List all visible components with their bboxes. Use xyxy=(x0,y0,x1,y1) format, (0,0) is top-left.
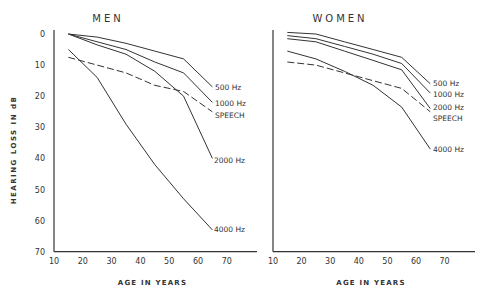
y-tick-label: 20 xyxy=(35,92,45,101)
series-line-speech xyxy=(287,62,430,112)
y-tick-label: 60 xyxy=(35,217,45,226)
x-tick-label: 10 xyxy=(268,257,278,266)
x-tick-label: 50 xyxy=(164,257,174,266)
x-tick-label: 60 xyxy=(193,257,203,266)
y-tick-label: 0 xyxy=(40,30,45,39)
hearing-loss-figure: MEN01020304050607010203040506070AGE IN Y… xyxy=(0,0,487,294)
x-tick-label: 60 xyxy=(411,257,421,266)
x-tick-label: 70 xyxy=(440,257,450,266)
x-tick-label: 20 xyxy=(297,257,307,266)
y-tick-label: 10 xyxy=(35,61,45,70)
x-tick-label: 20 xyxy=(78,257,88,266)
x-tick-label: 70 xyxy=(222,257,232,266)
series-label: 2000 Hz xyxy=(433,103,464,112)
men-panel: MEN01020304050607010203040506070AGE IN Y… xyxy=(35,13,257,287)
x-axis-label: AGE IN YEARS xyxy=(118,279,187,287)
panel-title: WOMEN xyxy=(312,13,367,24)
x-axis-label: AGE IN YEARS xyxy=(336,279,405,287)
x-tick-label: 50 xyxy=(382,257,392,266)
x-tick-label: 30 xyxy=(107,257,117,266)
series-label: 500 Hz xyxy=(433,79,459,88)
series-line-2000-hz xyxy=(287,39,430,109)
y-tick-label: 50 xyxy=(35,186,45,195)
series-label: 1000 Hz xyxy=(215,99,246,108)
series-label: 2000 Hz xyxy=(214,156,245,165)
series-label: 1000 Hz xyxy=(433,90,464,99)
series-line-2000-hz xyxy=(68,34,212,158)
y-tick-label: 70 xyxy=(35,248,45,257)
x-tick-label: 10 xyxy=(49,257,59,266)
series-label: 4000 Hz xyxy=(433,145,464,154)
x-tick-label: 40 xyxy=(135,257,145,266)
series-label: 500 Hz xyxy=(215,83,241,92)
y-tick-label: 30 xyxy=(35,123,45,132)
x-tick-label: 40 xyxy=(354,257,364,266)
y-tick-label: 40 xyxy=(35,154,45,163)
series-line-4000-hz xyxy=(287,51,430,149)
women-panel: WOMEN10203040506070AGE IN YEARS500 Hz100… xyxy=(268,13,475,287)
series-line-4000-hz xyxy=(68,50,212,230)
panel-title: MEN xyxy=(92,13,123,24)
x-tick-label: 30 xyxy=(325,257,335,266)
series-label: SPEECH xyxy=(433,114,463,123)
series-label: 4000 Hz xyxy=(214,225,245,234)
series-line-500-hz xyxy=(287,32,430,83)
series-label: SPEECH xyxy=(215,111,245,120)
series-line-1000-hz xyxy=(68,34,212,102)
